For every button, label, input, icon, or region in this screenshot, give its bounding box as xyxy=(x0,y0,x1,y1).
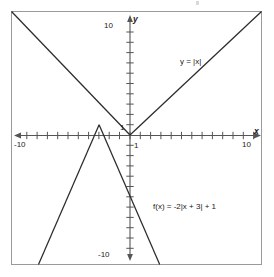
x-tick-label-negative-10: -10 xyxy=(14,141,26,149)
coordinate-plane xyxy=(0,0,274,277)
y-axis xyxy=(126,15,133,261)
y-tick-label-negative-10: -10 xyxy=(98,251,110,259)
curve-f-of-x xyxy=(39,125,160,265)
abs-right-branch xyxy=(130,12,262,136)
x-axis-label: x xyxy=(254,127,259,136)
equation-label-transformed-function: f(x) = -2|x + 3| + 1 xyxy=(153,203,216,211)
graph-figure: 10 1 -10 -10 1 10 y x y = |x| f(x) = -2|… xyxy=(0,0,274,277)
equation-label-absolute-value: y = |x| xyxy=(180,58,201,66)
y-axis-down-arrow xyxy=(127,254,133,261)
x-tick-label-10: 10 xyxy=(242,141,251,149)
abs-left-branch xyxy=(12,12,131,136)
fx-left-branch xyxy=(39,125,100,265)
y-tick-label-1: 1 xyxy=(120,124,124,132)
curve-y-equals-abs-x xyxy=(12,12,262,136)
x-axis-left-arrow xyxy=(14,133,21,139)
plot-frame xyxy=(12,12,262,265)
x-axis xyxy=(14,132,261,139)
y-axis-label: y xyxy=(133,15,138,24)
y-tick-label-10: 10 xyxy=(104,22,113,30)
x-tick-label-1: 1 xyxy=(134,142,138,150)
